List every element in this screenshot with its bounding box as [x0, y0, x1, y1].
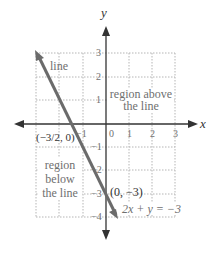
y-tick: −3 [91, 189, 102, 199]
y-intercept-label: (0, −3) [110, 186, 143, 198]
y-axis-label: y [101, 5, 107, 21]
region-below-line2: below [38, 172, 82, 186]
y-axis-arrow-down [102, 230, 110, 240]
region-below-annotation: region below the line [38, 158, 82, 200]
y-tick: −1 [91, 142, 102, 152]
y-tick: 2 [96, 72, 101, 82]
x-tick: −1 [76, 129, 87, 139]
x-tick: 1 [127, 129, 132, 139]
x-intercept-label: (−3/2, 0) [36, 131, 75, 143]
line-arrow-top [35, 50, 44, 61]
x-tick: 2 [150, 129, 155, 139]
y-tick: −4 [91, 212, 102, 222]
line-arrow-bottom [109, 209, 118, 219]
x-axis-label: x [200, 116, 206, 132]
y-tick: 1 [96, 95, 101, 105]
region-below-line3: the line [38, 186, 82, 200]
y-axis-arrow-up [102, 26, 110, 36]
region-below-line1: region [38, 158, 82, 172]
y-tick: 3 [96, 48, 101, 58]
x-axis-arrow-left [14, 120, 24, 128]
x-tick: 0 [109, 129, 114, 139]
region-above-line2: the line [108, 100, 174, 112]
x-tick: 3 [173, 129, 178, 139]
line-annotation: line [50, 60, 68, 72]
x-axis-arrow-right [188, 120, 198, 128]
equation-label: 2x + y = −3 [122, 203, 181, 215]
y-tick: −2 [91, 165, 102, 175]
region-above-annotation: region above the line [108, 88, 174, 112]
